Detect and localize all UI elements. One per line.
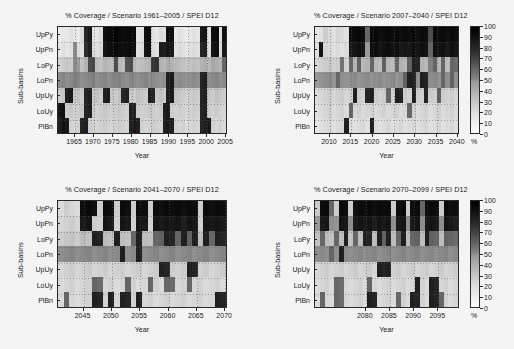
xtick-mark: [413, 308, 414, 311]
colorbar-tick-50: 50: [484, 251, 492, 258]
gridline-horizontal: [315, 263, 458, 264]
xtick-mark: [437, 308, 438, 311]
ytick-label-uppn: UpPn: [292, 220, 310, 227]
colorbar-tick-100: 100: [484, 197, 496, 204]
ytick-label-uppy: UpPy: [293, 204, 310, 211]
gridline-horizontal: [315, 247, 458, 248]
ytick-label-louy: LoUy: [294, 281, 310, 288]
ytick-mark: [314, 223, 317, 224]
colorbar-tick-60: 60: [484, 240, 492, 247]
colorbar-tickmark: [480, 265, 483, 266]
xtick-label-2095: 2095: [429, 312, 445, 319]
ytick-label-lopy: LoPy: [294, 235, 310, 242]
xtick-mark: [389, 308, 390, 311]
ytick-mark: [314, 239, 317, 240]
gridline-horizontal: [315, 232, 458, 233]
colorbar-tick-0: 0: [484, 305, 488, 312]
heatmap-cell: [453, 262, 458, 277]
xtick-label-2080: 2080: [357, 312, 373, 319]
ytick-mark: [314, 208, 317, 209]
colorbar-tick-90: 90: [484, 207, 492, 214]
colorbar-tick-20: 20: [484, 283, 492, 290]
colorbar: [470, 200, 480, 308]
colorbar-tickmark: [480, 308, 483, 309]
colorbar-tickmark: [480, 276, 483, 277]
ytick-mark: [314, 254, 317, 255]
colorbar-tickmark: [480, 222, 483, 223]
y-axis-label: Sub-basins: [273, 242, 282, 278]
colorbar-tickmark: [480, 254, 483, 255]
colorbar-unit-label: %: [471, 312, 477, 319]
colorbar-tickmark: [480, 243, 483, 244]
colorbar-tick-80: 80: [484, 218, 492, 225]
ytick-label-upuy: UpUy: [292, 266, 310, 273]
colorbar-tickmark: [480, 211, 483, 212]
colorbar-tick-10: 10: [484, 294, 492, 301]
panel-bottom-right: % Coverage / Scenario 2070–2099 / SPEI D…: [0, 0, 514, 349]
figure-canvas: % Coverage / Scenario 1961–2005 / SPEI D…: [0, 0, 514, 349]
gridline-horizontal: [315, 294, 458, 295]
ytick-label-lopn: LoPn: [294, 251, 310, 258]
colorbar-tickmark: [480, 232, 483, 233]
heatmap-cell: [453, 231, 458, 246]
gridline-horizontal: [315, 278, 458, 279]
xtick-mark: [365, 308, 366, 311]
panel-title: % Coverage / Scenario 2070–2099 / SPEI D…: [314, 185, 459, 194]
ytick-mark: [314, 300, 317, 301]
gridline-horizontal: [315, 216, 458, 217]
colorbar-tick-30: 30: [484, 272, 492, 279]
colorbar-tick-40: 40: [484, 261, 492, 268]
xtick-label-2090: 2090: [405, 312, 421, 319]
colorbar-tick-70: 70: [484, 229, 492, 236]
colorbar-tickmark: [480, 297, 483, 298]
heatmap-cell: [453, 201, 458, 216]
ytick-label-plbn: PlBn: [295, 297, 310, 304]
x-axis-label: Year: [314, 325, 459, 334]
colorbar-tickmark: [480, 200, 483, 201]
colorbar-tickmark: [480, 286, 483, 287]
ytick-mark: [314, 269, 317, 270]
heatmap-axes: [314, 200, 459, 308]
heatmap-cell: [453, 216, 458, 231]
xtick-label-2085: 2085: [381, 312, 397, 319]
heatmap-cell: [453, 246, 458, 261]
ytick-mark: [314, 285, 317, 286]
